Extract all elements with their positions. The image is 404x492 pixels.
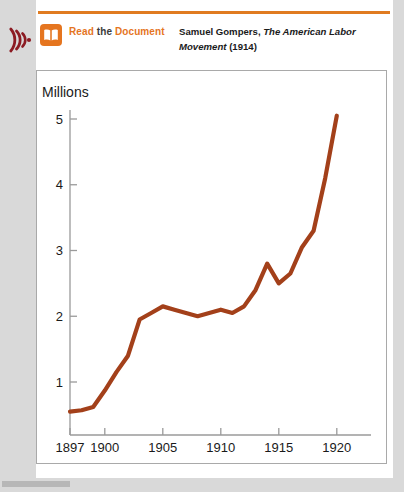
- x-tick-label: 1900: [90, 440, 119, 455]
- open-book-icon[interactable]: [40, 24, 62, 46]
- y-tick-label: 5: [56, 112, 63, 127]
- page-footer-bar: [2, 481, 70, 487]
- series-line: [70, 116, 337, 412]
- read-the-document-header: Read the Document Samuel Gompers, The Am…: [40, 22, 390, 62]
- y-tick-label: 1: [56, 375, 63, 390]
- the-word: the: [97, 26, 112, 37]
- read-the-document-label[interactable]: Read the Document: [69, 26, 165, 37]
- page-right-margin: [393, 0, 404, 492]
- data-series: [70, 116, 337, 412]
- x-tick-label: 1920: [322, 440, 351, 455]
- x-axis: 189719001905191019151920: [56, 428, 371, 455]
- accent-rule: [38, 11, 390, 14]
- y-axis: 12345: [56, 110, 77, 435]
- read-word: Read: [69, 26, 94, 37]
- x-tick-label: 1910: [206, 440, 235, 455]
- y-tick-label: 3: [56, 243, 63, 258]
- x-tick-label: 1897: [56, 440, 85, 455]
- document-citation: Samuel Gompers, The American Labor Movem…: [179, 25, 391, 54]
- citation-author: Samuel Gompers,: [179, 26, 261, 37]
- x-tick-label: 1915: [264, 440, 293, 455]
- x-tick-label: 1905: [148, 440, 177, 455]
- y-tick-label: 2: [56, 309, 63, 324]
- y-tick-label: 4: [56, 177, 63, 192]
- sound-wave-icon[interactable]: [7, 27, 35, 53]
- document-word: Document: [115, 26, 165, 37]
- page-left-margin: [0, 0, 36, 492]
- citation-year: (1914): [229, 41, 257, 52]
- line-chart: 12345 189719001905191019151920: [36, 70, 387, 464]
